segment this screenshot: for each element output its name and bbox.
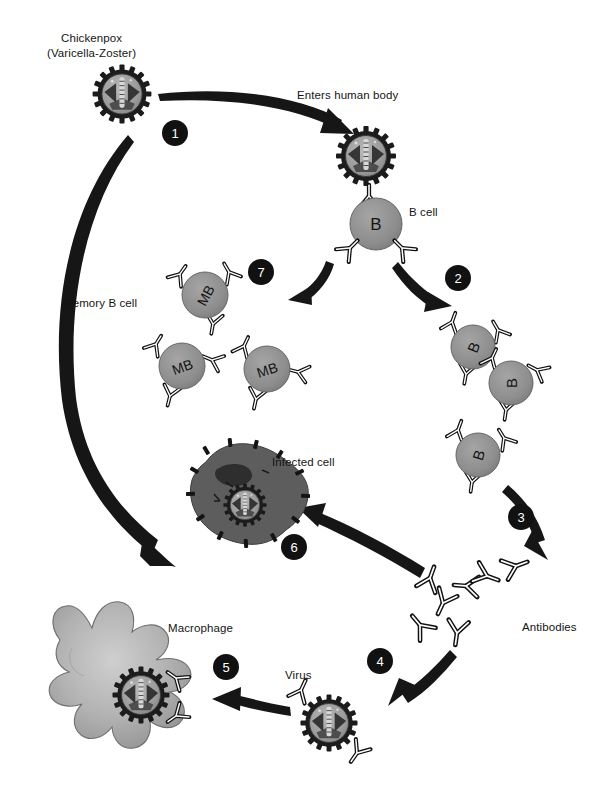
label-b-cell: B cell [409, 205, 438, 219]
label-antibodies: Antibodies [522, 620, 577, 634]
label-virus: Virus [285, 668, 312, 682]
engulfed-virus [113, 667, 170, 724]
arrow-2-proliferation [392, 262, 452, 312]
memory-b-cell-3: MB [232, 334, 309, 411]
free-virus [301, 695, 358, 752]
label-infected-cell: Infected cell [272, 455, 335, 469]
label-enters-human-body: Enters human body [297, 88, 398, 102]
memory-b-cell-2: MB [144, 331, 225, 407]
label-macrophage: Macrophage [168, 621, 233, 635]
proliferating-b-cell-2-label: B [503, 378, 520, 388]
step-badge-7: 7 [248, 259, 274, 285]
proliferating-b-cell-2: B [480, 346, 549, 421]
arrow-6-antibodies-tag-infected-cell [298, 503, 425, 578]
immunology-diagram: B B B B [0, 0, 604, 799]
b-cell-bound-virus [336, 126, 396, 186]
step-badge-3: 3 [508, 504, 534, 530]
arrow-5-macrophage-uptake [212, 687, 291, 716]
step-badge-4: 4 [367, 648, 393, 674]
step-badge-2: 2 [445, 265, 471, 291]
label-chickenpox: Chickenpox (Varicella-Zoster) [47, 31, 136, 61]
step-badge-6: 6 [281, 534, 307, 560]
memory-b-cell-1: MB [168, 259, 242, 335]
step-badge-1: 1 [162, 120, 188, 146]
antibodies-cluster [404, 552, 530, 646]
arrow-4-antibody-binds-virus [388, 650, 457, 706]
chickenpox-virus [93, 65, 152, 124]
label-memory-b-cell: Memory B cell [63, 296, 137, 310]
proliferating-b-cell-3: B [447, 418, 516, 493]
arrow-7-memory-cells [288, 261, 334, 305]
step-badge-5: 5 [213, 654, 239, 680]
b-cell-main-label: B [370, 215, 381, 234]
